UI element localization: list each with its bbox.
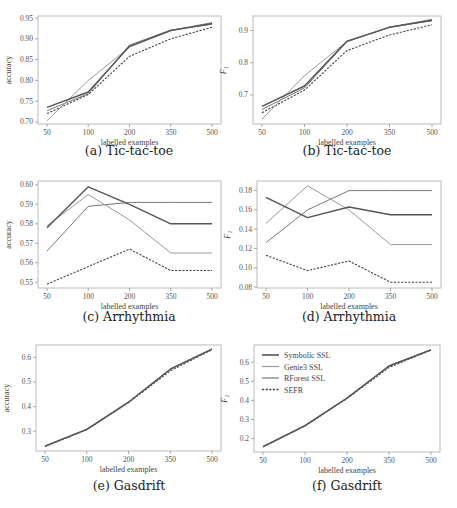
legend-label: SEFR — [284, 386, 304, 395]
plot-f: 0.20.30.40.50.650100200350500labelled ex… — [0, 0, 457, 475]
x-tick-label: 200 — [341, 456, 353, 465]
caption-e: (e) Gasdrift — [54, 478, 204, 493]
y-axis-label: F1 — [220, 394, 231, 403]
y-tick-label: 0.6 — [240, 358, 250, 367]
legend-label: Symbolic SSL — [284, 351, 331, 360]
y-tick-label: 0.2 — [240, 434, 250, 443]
x-tick-label: 100 — [299, 456, 311, 465]
y-tick-label: 0.4 — [240, 396, 250, 405]
x-tick-label: 350 — [383, 456, 395, 465]
y-tick-label: 0.5 — [240, 377, 250, 386]
legend-label: Genie3 SSL — [284, 363, 323, 372]
x-tick-label: 50 — [259, 456, 267, 465]
y-tick-label: 0.3 — [240, 415, 250, 424]
chart-f: 0.20.30.40.50.650100200350500labelled ex… — [0, 0, 457, 480]
x-tick-label: 500 — [425, 456, 437, 465]
x-axis-label: labelled examples — [318, 466, 376, 475]
legend-label: RForest SSL — [284, 374, 325, 383]
caption-f: (f) Gasdrift — [272, 478, 422, 493]
